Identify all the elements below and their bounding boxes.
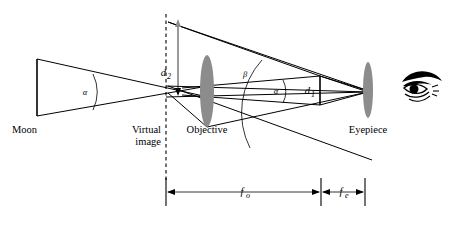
ray-objective-bottom-to-eyepiece-low [207, 92, 368, 127]
label-virtual-image-line1: Virtual [132, 124, 161, 135]
ray-lower-outer-span [168, 86, 372, 160]
diagram-canvas: α β α d 2 d 1 [0, 0, 456, 234]
d1-label-base: d [305, 85, 311, 96]
eye-pupil [410, 85, 419, 94]
angle-label-beta: β [242, 69, 248, 79]
dim-arrow-f-objective-left [167, 189, 175, 195]
ray-virtual-top-lower [168, 22, 320, 76]
dimension-row: f o f e [166, 178, 365, 206]
eye-brow [402, 71, 442, 82]
ray-bundle-lower-outer [166, 86, 372, 160]
eye-tail-mark-1 [432, 85, 438, 87]
label-eyepiece: Eyepiece [349, 124, 388, 135]
dim-arrow-f-objective-right [312, 189, 320, 195]
d2-label-subscript: 2 [167, 72, 171, 81]
angle-label-alpha-right: α [274, 86, 279, 96]
angle-arc-alpha-right [283, 80, 286, 103]
dim-arrow-f-eyepiece-right [356, 189, 364, 195]
telescope-ray-diagram: α β α d 2 d 1 [0, 0, 456, 234]
label-objective: Objective [187, 124, 228, 135]
d2-dimension-arrow [175, 19, 181, 96]
label-f-objective-base: f [241, 186, 246, 197]
ray-moon-bottom-to-objective [37, 86, 208, 116]
eye-tail-mark-3 [432, 94, 437, 96]
label-f-objective-subscript: o [246, 191, 250, 200]
angle-label-alpha-left: α [83, 87, 88, 97]
d2-label-base: d [161, 67, 167, 78]
d1-label-subscript: 1 [311, 90, 315, 99]
ray-bundle-virtual-image [168, 22, 372, 92]
dim-arrow-f-eyepiece-left [322, 189, 330, 195]
eyepiece-lens [363, 62, 373, 118]
objective-lens [200, 55, 214, 127]
observer-eye [402, 71, 442, 101]
d2-arrow-head-top [175, 19, 181, 27]
label-f-eyepiece-base: f [340, 186, 345, 197]
angle-arc-alpha-left [93, 74, 97, 110]
label-virtual-image-line2: image [135, 136, 161, 147]
label-f-eyepiece-subscript: e [345, 191, 349, 200]
ray-d1-top-to-eyepiece [320, 76, 368, 92]
label-moon: Moon [12, 124, 38, 135]
